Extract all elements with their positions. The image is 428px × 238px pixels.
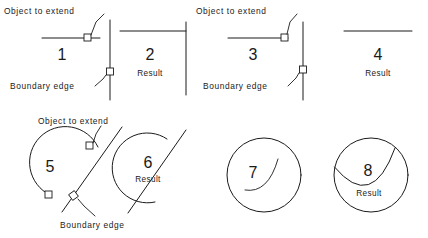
panel-2-result-label: Result [137,69,163,78]
panel-5: Object to extend Boundary edge 5 [30,116,125,230]
panel-3-boundary-pickbox [300,66,307,73]
panel-4: 4 Result [344,31,412,78]
panel-4-result-label: Result [365,69,391,78]
panel-7-circle [227,138,301,212]
extend-command-diagram: Object to extend Boundary edge 1 2 Resul… [0,0,428,238]
panel-2-number: 2 [146,46,155,63]
panel-1-object-pickbox [84,34,91,41]
panel-4-number: 4 [374,46,383,63]
panel-6-boundary-line [128,130,186,213]
panel-3-boundary-label: Boundary edge [203,81,268,91]
panel-3-object-leader [287,14,297,34]
panel-8-number: 8 [364,162,373,179]
panel-3-object-pickbox [281,34,288,41]
panel-3: Object to extend Boundary edge 3 [196,6,307,100]
panel-1-object-label: Object to extend [4,6,75,16]
panel-6-result-label: Result [135,175,161,184]
panel-5-object-arc [30,127,98,195]
panel-5-boundary-pickbox [69,191,79,201]
panel-5-object-pickbox-lower [45,191,52,198]
panel-5-object-pickbox [86,142,93,149]
panel-7: 7 [227,138,301,212]
panel-6-extended-arc [112,133,167,203]
panel-5-number: 5 [46,158,55,175]
panel-1-boundary-leader [95,75,106,86]
panel-5-boundary-label: Boundary edge [60,220,125,230]
panel-5-boundary-line [62,127,122,212]
panel-8-result-label: Result [356,189,382,198]
panel-6: 6 Result [112,130,186,213]
panel-3-object-label: Object to extend [196,6,267,16]
panel-1-boundary-label: Boundary edge [10,81,75,91]
panel-7-number: 7 [249,164,258,181]
panel-5-object-label: Object to extend [38,116,109,126]
panel-2: 2 Result [120,22,186,95]
panel-5-object-leader [93,126,101,143]
panel-6-number: 6 [144,154,153,171]
panel-1-number: 1 [58,46,67,63]
panel-1-object-leader [91,14,104,35]
panel-1-boundary-pickbox [107,68,114,75]
panel-8: 8 Result [334,138,408,212]
diagram-canvas: Object to extend Boundary edge 1 2 Resul… [0,0,428,238]
panel-5-boundary-leader [78,199,95,216]
panel-3-boundary-leader [288,73,299,86]
panel-3-number: 3 [249,46,258,63]
panel-1: Object to extend Boundary edge 1 [4,6,114,100]
